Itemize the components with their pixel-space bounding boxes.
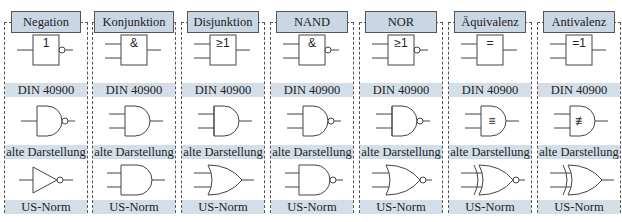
us-gate-symbol [271,159,353,201]
us-norm-label: US-Norm [182,200,264,214]
gate-column-disjunktion: ≥1 DIN 40900 alte Darstellung US-Norm [181,22,265,213]
din-gate-symbol: ≥1 [360,31,442,71]
svg-text:≢: ≢ [575,114,587,128]
us-norm-label: US-Norm [538,200,620,214]
us-gate-symbol [182,159,264,201]
column-header: Negation [11,11,81,33]
old-gate-symbol [93,98,175,144]
din-symbol-text: & [130,36,138,50]
old-gate-symbol [182,98,264,144]
old-gate-symbol [5,98,87,144]
column-header: Konjunktion [94,11,174,33]
din-label: DIN 40900 [271,83,353,97]
din-symbol-text: & [308,36,316,50]
us-norm-label: US-Norm [449,200,531,214]
old-gate-symbol: ≡ [449,98,531,144]
din-label: DIN 40900 [182,83,264,97]
gate-column-äquivalenz: = DIN 40900 ≡ alte Darstellung US-Norm [448,22,532,213]
old-style-label: alte Darstellung [93,145,175,159]
din-symbol-text: =1 [572,36,586,50]
column-header: Äquivalenz [454,11,526,33]
column-header: Antivalenz [543,11,615,33]
us-norm-label: US-Norm [5,200,87,214]
us-norm-label: US-Norm [360,200,442,214]
old-style-label: alte Darstellung [271,145,353,159]
gate-column-nand: & DIN 40900 alte Darstellung US-Norm [270,22,354,213]
gate-column-konjunktion: & DIN 40900 alte Darstellung US-Norm [92,22,176,213]
din-gate-symbol: = [449,31,531,71]
old-gate-symbol [360,98,442,144]
din-label: DIN 40900 [5,83,87,97]
din-symbol-text: ≥1 [216,36,230,50]
din-gate-symbol: & [93,31,175,71]
gate-column-negation: 1 DIN 40900 alte Darstellung US-Norm [4,22,88,213]
column-header: NAND [276,11,348,33]
din-label: DIN 40900 [93,83,175,97]
us-gate-symbol [93,159,175,201]
gate-column-antivalenz: =1 DIN 40900 ≢ alte Darstellung US-Norm [537,22,621,213]
old-gate-symbol [271,98,353,144]
old-style-label: alte Darstellung [538,145,620,159]
column-header: NOR [365,11,437,33]
din-gate-symbol: 1 [5,31,87,71]
din-gate-symbol: ≥1 [182,31,264,71]
din-symbol-text: ≥1 [394,36,408,50]
din-symbol-text: 1 [43,36,50,50]
us-gate-symbol [360,159,442,201]
din-label: DIN 40900 [360,83,442,97]
svg-text:≡: ≡ [488,114,495,128]
us-gate-symbol [538,159,620,201]
old-style-label: alte Darstellung [5,145,87,159]
old-style-label: alte Darstellung [449,145,531,159]
us-norm-label: US-Norm [93,200,175,214]
gate-column-nor: ≥1 DIN 40900 alte Darstellung US-Norm [359,22,443,213]
din-label: DIN 40900 [538,83,620,97]
din-gate-symbol: & [271,31,353,71]
din-label: DIN 40900 [449,83,531,97]
column-header: Disjunktion [187,11,259,33]
old-style-label: alte Darstellung [182,145,264,159]
din-symbol-text: = [486,36,493,50]
din-gate-symbol: =1 [538,31,620,71]
old-style-label: alte Darstellung [360,145,442,159]
us-norm-label: US-Norm [271,200,353,214]
us-gate-symbol [449,159,531,201]
old-gate-symbol: ≢ [538,98,620,144]
us-gate-symbol [5,159,87,201]
